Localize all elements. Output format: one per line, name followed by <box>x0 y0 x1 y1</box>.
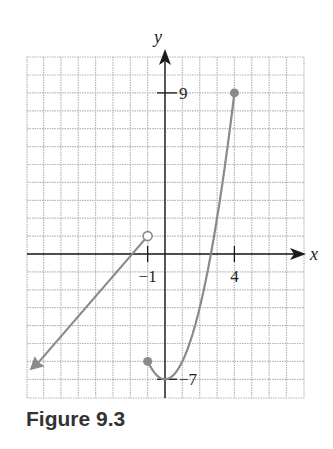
function-graph: yx−149−7 <box>0 0 333 449</box>
x-axis-label: x <box>309 244 318 264</box>
closed-point-marker <box>230 88 239 97</box>
y-tick-label: −7 <box>179 370 198 389</box>
y-axis-label: y <box>152 27 162 47</box>
open-circle-marker <box>143 232 152 241</box>
x-tick-label: −1 <box>139 267 157 286</box>
axes <box>27 49 306 398</box>
figure-caption: Figure 9.3 <box>26 407 125 431</box>
x-tick-label: 4 <box>230 267 239 286</box>
closed-point-marker <box>143 357 152 366</box>
linear-piece <box>38 236 148 363</box>
y-tick-label: 9 <box>179 84 188 103</box>
